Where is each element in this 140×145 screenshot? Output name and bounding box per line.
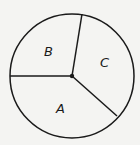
circle-svg: B C A bbox=[0, 0, 140, 145]
radius-top bbox=[72, 14, 82, 76]
center-point bbox=[70, 74, 74, 78]
region-label-c: C bbox=[100, 55, 110, 70]
radius-lower-right bbox=[72, 76, 117, 116]
partitioned-circle-diagram: B C A bbox=[0, 0, 140, 145]
region-label-b: B bbox=[44, 44, 53, 59]
region-label-a: A bbox=[55, 101, 65, 116]
